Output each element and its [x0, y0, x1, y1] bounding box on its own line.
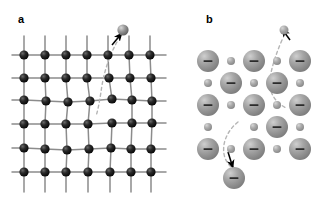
extracted-anion [223, 167, 245, 189]
figure-container: a [0, 0, 334, 204]
cation [273, 101, 281, 109]
anion [289, 50, 311, 72]
anion [197, 138, 219, 160]
ion-row-3 [197, 94, 311, 116]
ejected-cation [280, 26, 289, 35]
cation [296, 123, 304, 131]
detached-atom [117, 24, 128, 35]
cation [204, 79, 212, 87]
ion-row-2 [204, 72, 304, 94]
anion [289, 138, 311, 160]
cation [273, 57, 281, 65]
anion [197, 94, 219, 116]
anion [243, 138, 265, 160]
cation [250, 79, 258, 87]
cation [250, 123, 258, 131]
cation [227, 101, 235, 109]
anion [243, 50, 265, 72]
cation [227, 57, 235, 65]
panel-a: a [0, 0, 176, 204]
anion [243, 94, 265, 116]
anion [197, 50, 219, 72]
ion-row-5 [197, 138, 311, 160]
anion [289, 94, 311, 116]
panel-b: b [176, 0, 334, 204]
cation [296, 79, 304, 87]
panel-b-diagram [176, 0, 334, 204]
cation [204, 123, 212, 131]
cation [273, 145, 281, 153]
ion-row-4 [204, 116, 304, 138]
cation [227, 145, 235, 153]
panel-a-diagram [0, 0, 176, 204]
anion [266, 116, 288, 138]
anion [220, 72, 242, 94]
ion-row-1 [197, 50, 311, 72]
anion [266, 72, 288, 94]
